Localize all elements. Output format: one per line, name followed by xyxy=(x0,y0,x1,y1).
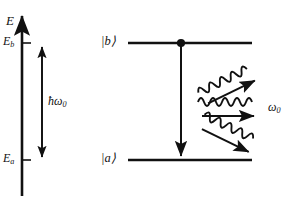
tick-label-Ea-sub: a xyxy=(10,157,14,166)
tick-label-Ea: Ea xyxy=(3,152,14,166)
energy-axis-label: E xyxy=(6,14,14,27)
wave-squiggle-up xyxy=(197,65,249,96)
diagram-canvas xyxy=(0,0,304,208)
energy-gap-label: ħω0 xyxy=(48,95,67,109)
energy-gap-label-sub: 0 xyxy=(62,100,66,109)
energy-gap-label-base: ħω xyxy=(48,94,62,108)
electron-dot xyxy=(177,39,185,47)
tick-label-Eb: Eb xyxy=(3,35,14,49)
level-label-a: |a⟩ xyxy=(101,152,116,165)
tick-label-Eb-sub: b xyxy=(10,40,14,49)
photon-wave-down xyxy=(198,111,256,152)
photon-frequency-label: ω0 xyxy=(268,101,281,115)
energy-level-diagram: E Eb Ea ħω0 |b⟩ |a⟩ ω0 xyxy=(0,0,304,208)
level-label-b: |b⟩ xyxy=(101,35,116,48)
photon-frequency-label-sub: 0 xyxy=(276,106,280,115)
wave-squiggle-middle xyxy=(198,98,252,106)
